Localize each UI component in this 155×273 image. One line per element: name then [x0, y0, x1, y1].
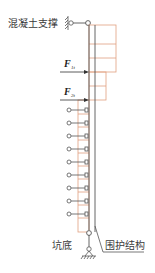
force-2-arrow [60, 98, 89, 102]
soil-springs [67, 108, 88, 216]
spring-support [67, 186, 88, 190]
spring-support [67, 160, 88, 164]
spring-support [67, 121, 88, 125]
spring-support [67, 173, 88, 177]
spring-support [67, 212, 88, 216]
bottom-hinge-icon [87, 231, 92, 236]
spring-support [67, 134, 88, 138]
retaining-structure-label: 围护结构 [105, 239, 145, 251]
force-1-arrow [60, 70, 89, 74]
pit-bottom-label: 坑底 [52, 239, 72, 251]
force-1-subscript: 1t [71, 65, 76, 70]
force-1-label: F [63, 58, 71, 69]
retaining-structure-diagram: 混凝土支撑 F 1t [0, 0, 155, 273]
fixed-support-icon [65, 16, 68, 30]
pin-support-icon [81, 247, 96, 259]
spring-support [67, 199, 88, 203]
retaining-wall [89, 25, 95, 232]
strut-hinge-left-icon [69, 21, 73, 25]
spring-support [67, 147, 88, 151]
force-2-label: F [63, 86, 71, 97]
spring-support [67, 108, 88, 112]
force-2-subscript: 2t [71, 93, 76, 98]
concrete-strut-label: 混凝土支撑 [8, 17, 58, 29]
